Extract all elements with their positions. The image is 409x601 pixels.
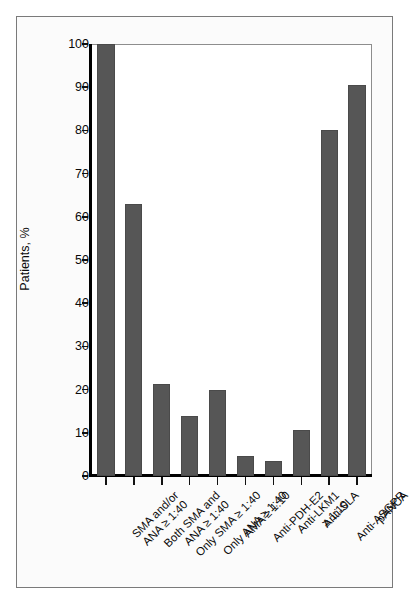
x-axis-labels: SMA and/orANA ≥ 1:40Both SMA andANA ≥ 1:…	[0, 0, 409, 601]
figure-container: 0102030405060708090100 Patients, % SMA a…	[0, 0, 409, 601]
